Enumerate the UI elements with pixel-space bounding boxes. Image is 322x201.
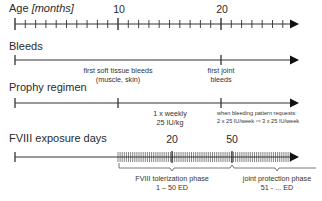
bleeds-event-soft-tissue: first soft tissue bleeds (muscle, skin) <box>83 66 152 84</box>
event-line: first joint <box>208 66 235 75</box>
event-line: 2 x 25 IU/week ⇨ 3 x 25 IU/week <box>217 117 299 125</box>
age-axis <box>15 18 299 30</box>
phase-range: 1 – 50 ED <box>135 183 209 192</box>
bleeds-event-joint: first joint bleeds <box>208 66 235 84</box>
event-line: when bleeding pattern requests: <box>217 109 299 117</box>
age-label-10: 10 <box>113 3 125 15</box>
prophy-axis-title: Prophy regimen <box>9 81 87 93</box>
tolerization-bracket <box>119 163 232 171</box>
age-axis-arrow-icon <box>290 20 299 29</box>
age-label-20: 20 <box>216 3 228 15</box>
event-line: bleeds <box>208 75 235 84</box>
timeline-graphics <box>0 0 322 201</box>
phase-range: 51 - ... ED <box>243 183 311 192</box>
bleeds-axis-arrow-icon <box>290 56 299 65</box>
age-unit-text: [months] <box>32 2 74 14</box>
fviii-axis <box>15 151 316 171</box>
prophy-axis <box>15 98 299 108</box>
protection-phase-label: joint protection phase 51 - ... ED <box>243 174 311 192</box>
age-title-text: Age <box>9 2 29 14</box>
bleeds-axis-title: Bleeds <box>9 40 43 52</box>
protection-bracket <box>232 165 316 171</box>
phase-name: FVIII tolerization phase <box>135 174 209 183</box>
prophy-axis-arrow-icon <box>290 99 299 108</box>
event-line: (muscle, skin) <box>83 75 152 84</box>
ed-label-20: 20 <box>166 133 178 145</box>
fviii-axis-title: FVIII exposure days <box>9 132 107 144</box>
event-line: 25 IU/kg <box>153 118 187 127</box>
ed-label-50: 50 <box>226 133 238 145</box>
event-line: 1 x weekly <box>153 109 187 118</box>
tolerization-phase-label: FVIII tolerization phase 1 – 50 ED <box>135 174 209 192</box>
event-line: first soft tissue bleeds <box>83 66 152 75</box>
phase-name: joint protection phase <box>243 174 311 183</box>
prophy-event-escalation: when bleeding pattern requests: 2 x 25 I… <box>217 109 299 125</box>
bleeds-axis <box>15 55 299 65</box>
fviii-axis-arrow-icon <box>290 153 299 162</box>
prophy-event-weekly: 1 x weekly 25 IU/kg <box>153 109 187 127</box>
age-axis-title: Age [months] <box>9 2 74 14</box>
